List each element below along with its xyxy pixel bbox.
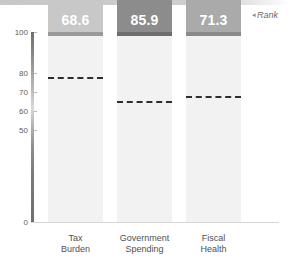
bar-value-fiscal-health: 71.3: [186, 12, 241, 28]
y-tick-label-60: 60: [6, 107, 28, 116]
y-tick-label-50: 50: [6, 126, 28, 135]
bar-track-government-spending: [117, 32, 172, 222]
bar-government-spending[interactable]: 85.9: [117, 0, 172, 32]
category-label-government-spending: Government Spending: [110, 233, 179, 255]
bar-cap-tax-burden: [48, 32, 103, 36]
chart-container: 145th 29th 106th ◂Rank 100 80 70 60 50 0…: [0, 0, 290, 261]
category-label-line1: Government: [110, 233, 179, 244]
world-average-line-tax-burden: [48, 77, 103, 79]
bar-cap-government-spending: [117, 32, 172, 36]
bar-tax-burden[interactable]: 68.6: [48, 0, 103, 32]
bar-cap-fiscal-health: [186, 32, 241, 36]
bar-value-tax-burden: 68.6: [48, 12, 103, 28]
bar-track-tax-burden: [48, 32, 103, 222]
y-axis-spine: [31, 32, 34, 222]
category-label-line1: Tax: [48, 233, 103, 244]
plot-area: 100 80 70 60 50 0 68.6 85.9: [0, 0, 290, 261]
category-label-line2: Burden: [48, 244, 103, 255]
y-tick-label-0: 0: [6, 218, 28, 227]
bar-fiscal-health[interactable]: 71.3: [186, 0, 241, 32]
world-average-line-fiscal-health: [186, 96, 241, 98]
y-tick-label-80: 80: [6, 69, 28, 78]
category-label-tax-burden: Tax Burden: [48, 233, 103, 255]
x-axis-baseline: [31, 222, 279, 223]
bar-value-government-spending: 85.9: [117, 12, 172, 28]
world-average-line-government-spending: [117, 101, 172, 103]
category-label-fiscal-health: Fiscal Health: [186, 233, 241, 255]
category-label-line2: Health: [186, 244, 241, 255]
y-tick-label-100: 100: [6, 28, 28, 37]
category-label-line2: Spending: [110, 244, 179, 255]
category-label-line1: Fiscal: [186, 233, 241, 244]
y-tick-label-70: 70: [6, 88, 28, 97]
bar-track-fiscal-health: [186, 32, 241, 222]
